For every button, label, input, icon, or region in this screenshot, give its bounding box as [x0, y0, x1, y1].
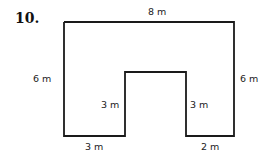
figure: 8 m 6 m 6 m 3 m 3 m 3 m 2 m — [0, 0, 269, 156]
shape-outline — [64, 22, 234, 136]
label-inner-left: 3 m — [101, 99, 119, 110]
label-bottom-right: 2 m — [201, 141, 219, 152]
label-left: 6 m — [33, 73, 51, 84]
label-bottom-left: 3 m — [85, 141, 103, 152]
label-inner-right: 3 m — [190, 99, 208, 110]
label-right: 6 m — [240, 73, 258, 84]
label-top: 8 m — [148, 6, 166, 17]
